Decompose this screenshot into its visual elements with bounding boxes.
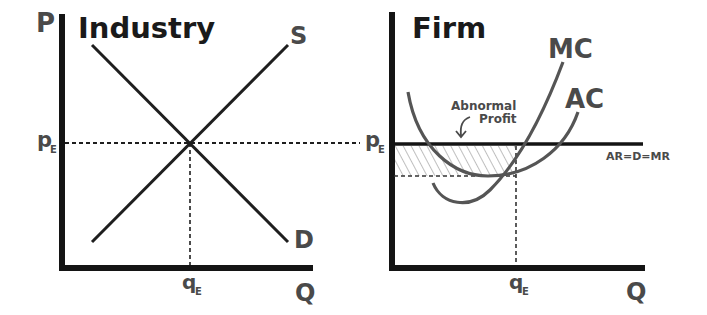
industry-qty-label: q E — [182, 270, 202, 297]
annotation-line1: Abnormal — [451, 99, 516, 113]
annotation-arrow-icon — [456, 117, 470, 137]
firm-price-label: p E — [365, 128, 385, 155]
industry-title: Industry — [78, 11, 215, 45]
demand-ar-mr-label: AR=D=MR — [606, 150, 670, 163]
price-label-sub: E — [50, 144, 57, 155]
firm-x-axis-label: Q — [626, 278, 646, 306]
price-label-sub: E — [378, 144, 385, 155]
firm-panel: Firm MC AC AR=D=MR Abnormal Profit p E q… — [365, 11, 670, 306]
industry-y-axis-label: P — [36, 8, 55, 38]
qty-label-sub: E — [195, 286, 202, 297]
industry-panel: P Industry S D Q p E q E — [36, 8, 360, 307]
annotation-line2: Profit — [479, 112, 517, 126]
diagram-canvas: P Industry S D Q p E q E Firm MC AC — [0, 0, 707, 315]
qty-label-sub: E — [522, 286, 529, 297]
abnormal-profit-area — [395, 146, 516, 176]
supply-label: S — [290, 22, 307, 50]
industry-price-label: p E — [37, 128, 57, 155]
ac-label: AC — [565, 84, 604, 114]
mc-label: MC — [548, 34, 593, 64]
firm-title: Firm — [412, 11, 486, 45]
firm-qty-label: q E — [509, 270, 529, 297]
mc-curve — [433, 62, 563, 203]
demand-label: D — [294, 226, 314, 254]
industry-x-axis-label: Q — [295, 279, 315, 307]
